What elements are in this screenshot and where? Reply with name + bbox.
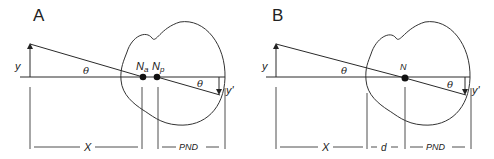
theta-object-a: θ [83, 65, 89, 76]
np-label: Np [152, 60, 165, 74]
n-label: N [400, 62, 407, 72]
object-label-b: y [261, 60, 269, 72]
posterior-nodal-point [154, 74, 161, 81]
dim-d-label: d [381, 142, 387, 153]
panel-b-label: B [272, 6, 283, 25]
theta-object-b: θ [341, 65, 347, 76]
eye-outline-a [121, 22, 225, 126]
ray-b [276, 44, 466, 95]
object-label-a: y [14, 60, 22, 72]
nodal-point [402, 75, 409, 82]
theta-image-a: θ [197, 78, 203, 89]
panel-a-label: A [33, 6, 45, 25]
dim-pnd-label-b: PND [426, 142, 446, 152]
image-label-b: y' [471, 84, 481, 96]
dim-pnd-label-a: PND [179, 142, 199, 152]
dim-x-label-a: X [83, 141, 92, 153]
anterior-nodal-point [140, 74, 147, 81]
refracted-ray-a [157, 77, 220, 95]
image-label-a: y' [225, 84, 235, 96]
eye-outline-b [366, 22, 470, 126]
panel-a: A y y' θ θ Na Np X PND [14, 6, 235, 153]
theta-image-b: θ [447, 79, 453, 90]
panel-b: B y y' θ θ N X d PND [261, 6, 481, 153]
na-label: Na [136, 60, 149, 74]
dim-x-label-b: X [321, 141, 330, 153]
eye-optics-diagram: A y y' θ θ Na Np X PND [0, 0, 494, 159]
